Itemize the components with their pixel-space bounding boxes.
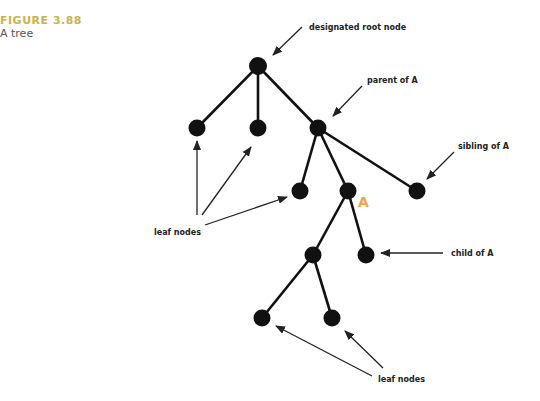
arrow-leaf-left-3: [205, 197, 287, 225]
edge-a-inner: [313, 191, 348, 255]
node-child-of-a: [358, 247, 375, 264]
arrow-sibling: [427, 152, 454, 179]
label-sibling-of-a: sibling of A: [458, 142, 510, 151]
node-sibling-of-a: [409, 183, 426, 200]
node-leaf: [189, 120, 206, 137]
arrow-root: [273, 27, 302, 55]
arrow-leaf-bottom-2: [345, 331, 383, 368]
label-parent-of-a: parent of A: [367, 76, 419, 85]
arrow-leaf-bottom-1: [276, 326, 372, 376]
node-leaf: [254, 310, 271, 327]
label-child-of-a: child of A: [451, 249, 494, 258]
label-leaf-nodes-bottom: leaf nodes: [378, 375, 425, 384]
node-leaf: [324, 310, 341, 327]
label-designated-root-node: designated root node: [309, 23, 407, 32]
node-leaf: [250, 120, 267, 137]
node-parent-of-a: [310, 120, 327, 137]
node-leaf: [292, 183, 309, 200]
edge-inner-leaf5: [313, 255, 332, 318]
arrow-parent: [333, 86, 362, 116]
label-leaf-nodes-left: leaf nodes: [154, 228, 201, 237]
tree-diagram: designated root node parent of A sibling…: [0, 0, 540, 401]
edge-root-leaf1: [197, 66, 258, 128]
arrow-leaf-left-2: [202, 147, 251, 215]
node-a: [340, 183, 357, 200]
node-inner: [305, 247, 322, 264]
edge-inner-leaf4: [262, 255, 313, 318]
node-root: [249, 57, 267, 75]
label-node-a: A: [358, 194, 369, 210]
tree-nodes: [189, 57, 426, 327]
edge-parent-leaf3: [300, 128, 318, 191]
edge-root-parent: [258, 66, 318, 128]
